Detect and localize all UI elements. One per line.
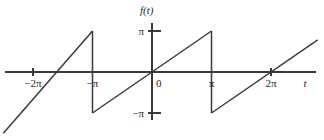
- x-tick-label: π: [209, 77, 215, 89]
- x-axis-label: t: [303, 77, 307, 89]
- axes-group: [5, 23, 316, 119]
- x-tick-label: −2π: [24, 77, 42, 89]
- sawtooth-wave-figure: −2π−π0π2π π−π f(t) t: [0, 0, 324, 140]
- curve-segment: [3, 31, 92, 133]
- plot-canvas: −2π−π0π2π π−π f(t) t: [0, 0, 324, 140]
- x-tick-label: 0: [156, 77, 162, 89]
- y-axis-label: f(t): [140, 4, 154, 17]
- x-tick-label: −π: [87, 77, 99, 89]
- x-tick-label: 2π: [265, 77, 277, 89]
- x-axis-tick-labels: −2π−π0π2π: [24, 77, 277, 89]
- y-tick-label: −π: [132, 107, 144, 119]
- y-tick-label: π: [138, 25, 144, 37]
